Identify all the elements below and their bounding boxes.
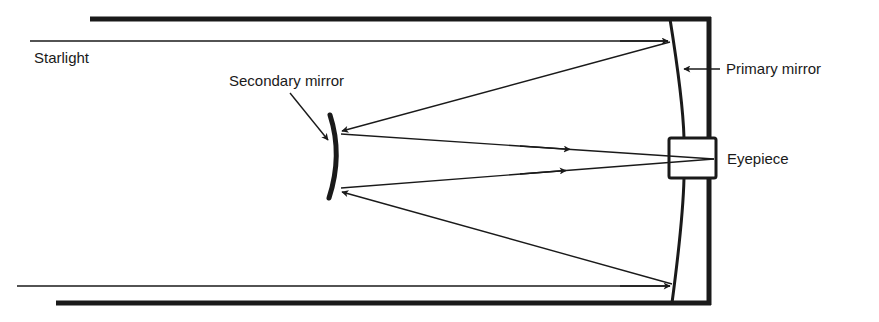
- eyepiece-label: Eyepiece: [727, 151, 789, 166]
- telescope-tube: [56, 17, 711, 305]
- primary-mirror-label: Primary mirror: [726, 61, 821, 76]
- starlight-label: Starlight: [34, 50, 89, 65]
- label-leaders: [290, 69, 720, 140]
- secondary-mirror-label: Secondary mirror: [229, 73, 344, 88]
- primary-reflected-rays: [342, 42, 672, 284]
- secondary-reflected-rays: [341, 134, 714, 188]
- secondary-mirror: [329, 115, 336, 198]
